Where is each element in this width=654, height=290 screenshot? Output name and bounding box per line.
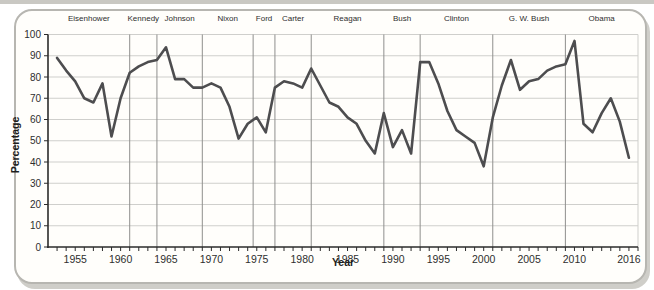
x-tick-label: 1965	[154, 253, 178, 265]
y-tick-label: 90	[30, 50, 42, 61]
y-tick-label: 80	[30, 72, 42, 83]
y-tick-label: 30	[30, 178, 42, 189]
president-era-label: Reagan	[334, 14, 362, 23]
y-tick-label: 70	[30, 93, 42, 104]
president-era-label: Carter	[282, 14, 305, 23]
x-tick-label: 1975	[245, 253, 269, 265]
president-era-label: G. W. Bush	[509, 14, 549, 23]
x-tick-label: 1995	[427, 253, 451, 265]
y-tick-label: 10	[30, 220, 42, 231]
y-axis-title: Percentage	[9, 103, 23, 187]
page: 0102030405060708090100195519601965197019…	[0, 0, 654, 290]
president-era-label: Kennedy	[128, 14, 160, 23]
y-tick-label: 100	[24, 29, 41, 40]
president-era-label: Bush	[393, 14, 411, 23]
x-tick-label: 1960	[109, 253, 133, 265]
x-tick-label: 2010	[563, 253, 587, 265]
president-era-label: Obama	[589, 14, 616, 23]
x-tick-label: 1955	[64, 253, 88, 265]
y-tick-label: 20	[30, 199, 42, 210]
y-tick-label: 50	[30, 135, 42, 146]
president-era-label: Clinton	[444, 14, 469, 23]
x-tick-label: 2000	[472, 253, 496, 265]
x-tick-label: 2005	[517, 253, 541, 265]
presidential-percentage-line-chart: 0102030405060708090100195519601965197019…	[0, 0, 654, 290]
x-tick-label: 1970	[200, 253, 224, 265]
president-era-label: Ford	[256, 14, 272, 23]
president-era-label: Eisenhower	[68, 14, 110, 23]
president-era-label: Nixon	[217, 14, 237, 23]
data-line	[57, 41, 629, 166]
president-era-label: Johnson	[164, 14, 194, 23]
y-tick-label: 40	[30, 157, 42, 168]
x-axis-title: Year	[303, 256, 383, 268]
y-tick-label: 60	[30, 114, 42, 125]
x-tick-label: 1990	[381, 253, 405, 265]
x-tick-label: 2016	[617, 253, 641, 265]
y-tick-label: 0	[35, 242, 41, 253]
